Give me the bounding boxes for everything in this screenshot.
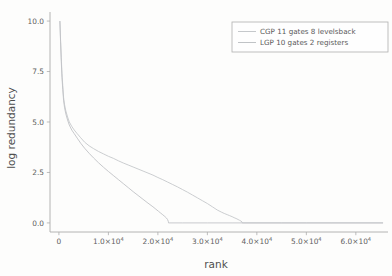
x-tick-label: 2.0×104 [143, 236, 174, 246]
legend-label-cgp: CGP 11 gates 8 levelsback [260, 27, 356, 36]
x-axis-title: rank [204, 258, 228, 270]
x-tick-label: 4.0×104 [242, 236, 273, 246]
x-tick-label: 0 [57, 237, 62, 246]
y-tick-label: 2.5 [32, 168, 44, 177]
x-tick-label: 1.0×104 [93, 236, 124, 246]
x-tick-label: 3.0×104 [192, 236, 223, 246]
chart-legend[interactable]: CGP 11 gates 8 levelsback LGP 10 gates 2… [232, 22, 388, 52]
x-tick-label: 6.0×104 [340, 236, 371, 246]
y-tick-label: 0.0 [32, 219, 44, 228]
chart-figure: 01.0×1042.0×1043.0×1044.0×1045.0×1046.0×… [0, 0, 392, 276]
legend-label-lgp: LGP 10 gates 2 registers [260, 38, 348, 47]
y-tick-label: 5.0 [32, 118, 44, 127]
y-axis-title: log redundancy [5, 87, 17, 169]
x-tick-label: 5.0×104 [291, 236, 322, 246]
y-tick-label: 7.5 [32, 67, 44, 76]
y-tick-label: 10.0 [28, 17, 45, 26]
line-chart-canvas: 01.0×1042.0×1043.0×1044.0×1045.0×1046.0×… [0, 0, 392, 276]
